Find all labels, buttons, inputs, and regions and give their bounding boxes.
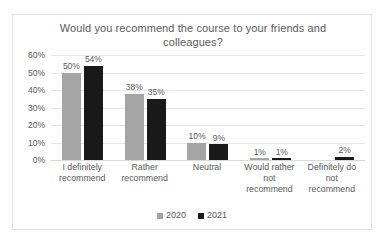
legend-swatch-icon: [198, 213, 204, 219]
bar-slot: [313, 55, 332, 160]
bar-pair: 2%: [302, 55, 365, 160]
bar-slot: 54%: [84, 55, 103, 160]
bar-slot: 9%: [209, 55, 228, 160]
chart-legend: 20202021: [13, 211, 371, 220]
category-label: Would rather not recommend: [238, 162, 300, 195]
bar-value-label: 2%: [338, 146, 350, 155]
chart-container: Would you recommend the course to your f…: [12, 14, 372, 230]
bar-slot: 35%: [147, 55, 166, 160]
bar-value-label: 35%: [148, 88, 165, 97]
plot-region: 60%50%40%30%20%10%0% 50%54%38%35%10%9%1%…: [21, 55, 365, 160]
bar-value-label: 10%: [188, 132, 205, 141]
bar-2021[interactable]: [272, 158, 291, 160]
category-label: Rather recommend: [113, 162, 175, 195]
bar-slot: 10%: [187, 55, 206, 160]
bar-group: 1%1%: [239, 55, 302, 160]
legend-item-2020[interactable]: 2020: [157, 211, 186, 220]
y-axis: 60%50%40%30%20%10%0%: [21, 55, 45, 160]
bar-2021[interactable]: [209, 144, 228, 160]
bar-2020[interactable]: [250, 158, 269, 160]
bar-value-label: 1%: [254, 148, 266, 157]
legend-label: 2020: [166, 211, 186, 220]
bar-slot: 1%: [272, 55, 291, 160]
bar-2020[interactable]: [125, 94, 144, 161]
y-axis-tick: 10%: [21, 138, 45, 147]
bar-pair: 10%9%: [177, 55, 240, 160]
bar-group: 10%9%: [177, 55, 240, 160]
axis-baseline: [51, 160, 365, 161]
bar-slot: 1%: [250, 55, 269, 160]
bar-2021[interactable]: [84, 66, 103, 161]
chart-title: Would you recommend the course to your f…: [31, 21, 355, 49]
category-axis: I definitely recommendRather recommendNe…: [51, 162, 363, 195]
bar-group: 50%54%: [51, 55, 114, 160]
bar-groups: 50%54%38%35%10%9%1%1%2%: [51, 55, 365, 160]
plot-area: 50%54%38%35%10%9%1%1%2%: [51, 55, 365, 160]
y-axis-tick: 30%: [21, 103, 45, 112]
y-axis-tick: 40%: [21, 86, 45, 95]
legend-label: 2021: [207, 211, 227, 220]
bar-pair: 1%1%: [239, 55, 302, 160]
category-label: Definitely do not recommend: [301, 162, 363, 195]
bar-2020[interactable]: [187, 143, 206, 161]
bar-2021[interactable]: [335, 157, 354, 161]
bar-value-label: 50%: [63, 62, 80, 71]
bar-2020[interactable]: [62, 73, 81, 161]
legend-swatch-icon: [157, 213, 163, 219]
y-axis-tick: 20%: [21, 121, 45, 130]
bar-value-label: 54%: [85, 55, 102, 64]
legend-item-2021[interactable]: 2021: [198, 211, 227, 220]
bar-slot: 38%: [125, 55, 144, 160]
bar-pair: 50%54%: [51, 55, 114, 160]
y-axis-tick: 0%: [21, 156, 45, 165]
bar-group: 38%35%: [114, 55, 177, 160]
bar-value-label: 1%: [276, 148, 288, 157]
category-label: Neutral: [176, 162, 238, 195]
y-axis-tick: 60%: [21, 51, 45, 60]
bar-value-label: 9%: [213, 134, 225, 143]
category-label: I definitely recommend: [51, 162, 113, 195]
bar-group: 2%: [302, 55, 365, 160]
bar-slot: 50%: [62, 55, 81, 160]
bar-2021[interactable]: [147, 99, 166, 160]
y-axis-tick: 50%: [21, 68, 45, 77]
bar-slot: 2%: [335, 55, 354, 160]
bar-value-label: 38%: [126, 83, 143, 92]
bar-pair: 38%35%: [114, 55, 177, 160]
